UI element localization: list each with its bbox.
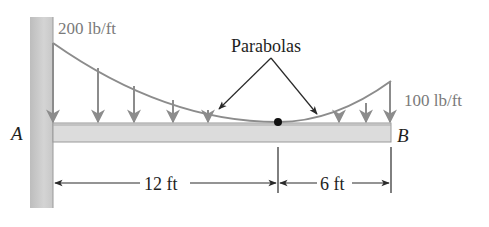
- dimension-label-6ft: 6 ft: [317, 175, 348, 193]
- fixed-wall-support: [30, 17, 53, 208]
- load-label-right: 100 lb/ft: [404, 92, 462, 109]
- point-b-label: B: [397, 126, 409, 145]
- parabola-vertex-point: [274, 118, 282, 126]
- parabolas-leader-lines: [219, 58, 317, 114]
- parabolas-label: Parabolas: [231, 37, 301, 55]
- dimension-label-12ft: 12 ft: [141, 175, 181, 193]
- load-label-left: 200 lb/ft: [58, 20, 116, 37]
- beam: [53, 123, 391, 142]
- point-a-label: A: [11, 124, 23, 143]
